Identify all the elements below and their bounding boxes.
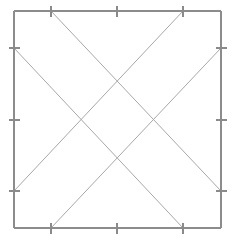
geometric-figure-svg xyxy=(0,0,236,241)
diagonal-top-left-to-bottom-right xyxy=(51,11,221,191)
diagonal-top-right-to-bottom-left xyxy=(14,11,183,191)
outer-square-frame xyxy=(14,11,221,228)
diagonal-lines-group xyxy=(14,11,221,228)
figure-canvas xyxy=(0,0,236,241)
diagonal-left-top-to-bottom-right xyxy=(14,48,183,228)
diagonal-right-top-to-bottom-left xyxy=(51,48,221,228)
